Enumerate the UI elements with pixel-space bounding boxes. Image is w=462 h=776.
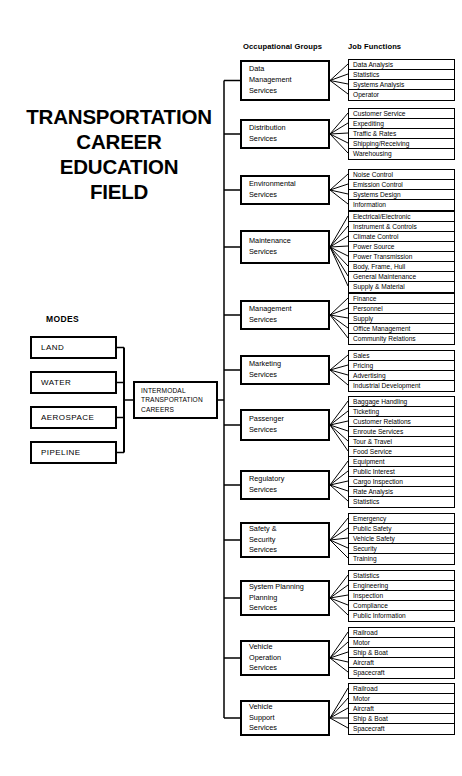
job-function-row[interactable]: Noise Control — [349, 170, 454, 180]
job-functions-group: EmergencyPublic SafetyVehicle SafetySecu… — [348, 513, 455, 565]
job-function-row[interactable]: Industrial Development — [349, 381, 454, 391]
job-function-row[interactable]: Traffic & Rates — [349, 129, 454, 139]
job-function-row[interactable]: Emission Control — [349, 180, 454, 190]
job-functions-group: Noise ControlEmission ControlSystems Des… — [348, 169, 455, 211]
job-function-row[interactable]: Rate Analysis — [349, 487, 454, 497]
job-function-row[interactable]: Warehousing — [349, 149, 454, 159]
page-title: TRANSPORTATION CAREER EDUCATION FIELD — [6, 104, 232, 204]
mode-box-water[interactable]: WATER — [30, 371, 117, 394]
occupational-group-box[interactable]: RegulatoryServices — [240, 470, 330, 500]
occupational-group-box[interactable]: DataManagementServices — [240, 60, 330, 101]
occupational-group-label: Vehicle — [249, 642, 328, 653]
job-function-row[interactable]: Vehicle Safety — [349, 534, 454, 544]
job-function-row[interactable]: Spacecraft — [349, 668, 454, 678]
job-function-row[interactable]: Enroute Services — [349, 427, 454, 437]
occupational-group-box[interactable]: PassengerServices — [240, 409, 330, 441]
occupational-group-box[interactable]: MarketingServices — [240, 355, 330, 385]
job-function-row[interactable]: Statistics — [349, 497, 454, 507]
job-function-row[interactable]: Electrical/Electronic — [349, 212, 454, 222]
occupational-group-box[interactable]: VehicleOperationServices — [240, 640, 330, 676]
occupational-group-label: Services — [249, 485, 328, 496]
occupational-group-box[interactable]: MaintenanceServices — [240, 230, 330, 264]
job-function-row[interactable]: Compliance — [349, 601, 454, 611]
job-function-row[interactable]: Public Safety — [349, 524, 454, 534]
job-function-row[interactable]: Aircraft — [349, 658, 454, 668]
job-function-row[interactable]: Statistics — [349, 571, 454, 581]
job-function-row[interactable]: Equipment — [349, 457, 454, 467]
job-function-row[interactable]: Supply & Material — [349, 282, 454, 292]
job-function-row[interactable]: Railroad — [349, 628, 454, 638]
job-function-row[interactable]: Sales — [349, 351, 454, 361]
job-function-row[interactable]: Aircraft — [349, 704, 454, 714]
job-function-row[interactable]: Systems Analysis — [349, 80, 454, 90]
job-function-row[interactable]: Finance — [349, 294, 454, 304]
job-function-row[interactable]: Public Interest — [349, 467, 454, 477]
intermodal-careers-box[interactable]: INTERMODAL TRANSPORTATION CAREERS — [133, 381, 218, 419]
job-function-row[interactable]: Community Relations — [349, 334, 454, 344]
job-function-row[interactable]: Pricing — [349, 361, 454, 371]
job-function-row[interactable]: Cargo Inspection — [349, 477, 454, 487]
job-function-row[interactable]: General Maintenance — [349, 272, 454, 282]
hub-line-2: TRANSPORTATION — [141, 395, 216, 405]
job-function-row[interactable]: Public Information — [349, 611, 454, 621]
job-function-row[interactable]: Supply — [349, 314, 454, 324]
job-function-row[interactable]: Systems Design — [349, 190, 454, 200]
column-header-occupational-groups: Occupational Groups — [243, 42, 322, 51]
job-function-row[interactable]: Ticketing — [349, 407, 454, 417]
occupational-group-label: Services — [249, 425, 328, 436]
column-header-job-functions: Job Functions — [348, 42, 401, 51]
job-function-row[interactable]: Motor — [349, 638, 454, 648]
job-function-row[interactable]: Personnel — [349, 304, 454, 314]
job-function-row[interactable]: Ship & Boat — [349, 714, 454, 724]
job-function-row[interactable]: Ship & Boat — [349, 648, 454, 658]
occupational-group-label: Services — [249, 134, 328, 145]
job-function-row[interactable]: Statistics — [349, 70, 454, 80]
occupational-group-box[interactable]: VehicleSupportServices — [240, 700, 330, 736]
occupational-group-label: Passenger — [249, 414, 328, 425]
job-functions-group: RailroadMotorShip & BoatAircraftSpacecra… — [348, 627, 455, 679]
occupational-group-label: Vehicle — [249, 702, 328, 713]
mode-label: PIPELINE — [41, 448, 81, 457]
job-function-row[interactable]: Expediting — [349, 119, 454, 129]
occupational-group-box[interactable]: DistributionServices — [240, 119, 330, 149]
occupational-group-label: Support — [249, 713, 328, 724]
job-functions-group: EquipmentPublic InterestCargo Inspection… — [348, 456, 455, 508]
job-function-row[interactable]: Climate Control — [349, 232, 454, 242]
job-function-row[interactable]: Power Source — [349, 242, 454, 252]
occupational-group-label: Services — [249, 545, 328, 556]
job-functions-group: Customer ServiceExpeditingTraffic & Rate… — [348, 108, 455, 160]
mode-box-aerospace[interactable]: AEROSPACE — [30, 406, 117, 429]
job-functions-group: SalesPricingAdvertisingIndustrial Develo… — [348, 350, 455, 392]
job-function-row[interactable]: Instrument & Controls — [349, 222, 454, 232]
job-function-row[interactable]: Tour & Travel — [349, 437, 454, 447]
occupational-group-box[interactable]: Safety &SecurityServices — [240, 522, 330, 558]
occupational-group-label: Security — [249, 535, 328, 546]
job-function-row[interactable]: Customer Service — [349, 109, 454, 119]
occupational-group-box[interactable]: EnvironmentalServices — [240, 175, 330, 205]
job-function-row[interactable]: Inspection — [349, 591, 454, 601]
job-function-row[interactable]: Shipping/Receiving — [349, 139, 454, 149]
job-function-row[interactable]: Baggage Handling — [349, 397, 454, 407]
job-function-row[interactable]: Operator — [349, 90, 454, 100]
job-function-row[interactable]: Office Management — [349, 324, 454, 334]
job-function-row[interactable]: Engineering — [349, 581, 454, 591]
job-function-row[interactable]: Training — [349, 554, 454, 564]
job-function-row[interactable]: Data Analysis — [349, 60, 454, 70]
occupational-group-label: Marketing — [249, 359, 328, 370]
mode-box-land[interactable]: LAND — [30, 336, 117, 359]
job-function-row[interactable]: Spacecraft — [349, 724, 454, 734]
job-function-row[interactable]: Security — [349, 544, 454, 554]
job-function-row[interactable]: Customer Relations — [349, 417, 454, 427]
mode-box-pipeline[interactable]: PIPELINE — [30, 441, 117, 464]
job-function-row[interactable]: Body, Frame, Hull — [349, 262, 454, 272]
occupational-group-box[interactable]: ManagementServices — [240, 300, 330, 330]
job-function-row[interactable]: Information — [349, 200, 454, 210]
job-function-row[interactable]: Emergency — [349, 514, 454, 524]
occupational-group-label: Regulatory — [249, 474, 328, 485]
job-function-row[interactable]: Power Transmission — [349, 252, 454, 262]
job-function-row[interactable]: Railroad — [349, 684, 454, 694]
job-function-row[interactable]: Motor — [349, 694, 454, 704]
occupational-group-box[interactable]: System PlanningPlanningServices — [240, 580, 330, 616]
job-function-row[interactable]: Advertising — [349, 371, 454, 381]
occupational-group-label: Services — [249, 663, 328, 674]
